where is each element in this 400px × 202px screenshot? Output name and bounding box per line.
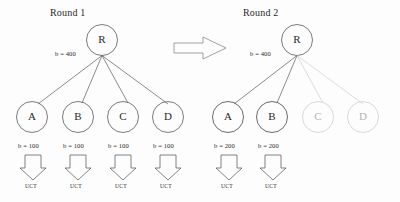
round-2-method-label-a: UCT: [221, 184, 233, 190]
right-arrow-icon: [174, 37, 226, 59]
round-1-budget-label-c: b = 100: [108, 143, 129, 150]
round-1-method-label-b: UCT: [70, 184, 82, 190]
round-1-child-label-d: D: [162, 111, 174, 122]
round-1-child-label-a: A: [26, 111, 38, 122]
round-2-edges: [234, 56, 363, 105]
round-2-down-arrow-a: [216, 155, 242, 180]
round-2-method-label-b: UCT: [265, 184, 277, 190]
round-2-child-label-c: C: [312, 111, 324, 122]
round-1-root-label: R: [96, 34, 108, 45]
round-1-child-label-c: C: [117, 111, 129, 122]
round-1-panel: [17, 25, 184, 181]
round-1-budget-label-d: b = 100: [153, 143, 174, 150]
round-1-method-label-d: UCT: [160, 184, 172, 190]
round-2-child-label-b: B: [266, 111, 278, 122]
round-1-budget-label-a: b = 100: [18, 143, 39, 150]
edge-root-to-c: [102, 56, 128, 104]
edge-root-to-a: [234, 56, 297, 105]
round-1-edges: [38, 56, 168, 105]
round-1-down-arrow-b: [65, 155, 91, 180]
round-2-title: Round 2: [243, 8, 279, 18]
edge-root-to-a: [38, 56, 102, 105]
round-1-down-arrow-c: [110, 155, 136, 180]
edge-root-to-b: [82, 56, 102, 104]
round-1-method-label-a: UCT: [25, 184, 37, 190]
round-1-title: Round 1: [50, 8, 86, 18]
round-2-budget-label-b: b = 200: [258, 143, 279, 150]
round-1-root-budget-label: b = 400: [55, 51, 76, 58]
round-1-method-label-c: UCT: [115, 184, 127, 190]
round-2-child-label-a: A: [222, 111, 234, 122]
edge-root-to-c: [297, 56, 323, 104]
edge-root-to-b: [277, 56, 297, 104]
diagram-canvas: Round 1 R b = 400 A B C D b = 100 b = 10…: [0, 0, 400, 202]
round-2-root-budget-label: b = 400: [250, 51, 271, 58]
round-2-budget-label-a: b = 200: [214, 143, 235, 150]
round-1-budget-label-b: b = 100: [63, 143, 84, 150]
round-2-panel: [213, 25, 379, 181]
round-1-child-label-b: B: [72, 111, 84, 122]
round-2-root-label: R: [291, 34, 303, 45]
diagram-vector-layer: [0, 0, 400, 202]
round-2-down-arrow-b: [260, 155, 286, 180]
round-1-down-arrow-a: [20, 155, 46, 180]
round-2-child-label-d: D: [357, 111, 369, 122]
round-1-down-arrow-d: [155, 155, 181, 180]
edge-root-to-d: [297, 56, 363, 105]
edge-root-to-d: [102, 56, 168, 105]
